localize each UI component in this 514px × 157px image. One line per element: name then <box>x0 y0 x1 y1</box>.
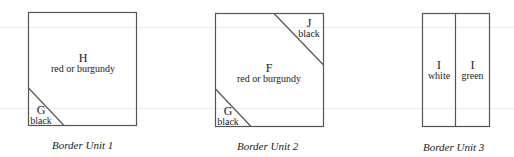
piece-color: red or burgundy <box>234 74 304 84</box>
piece-color: green <box>456 71 489 81</box>
piece-color: black <box>215 117 241 127</box>
unit2-piece-f: F red or burgundy <box>234 62 304 84</box>
unit2-piece-g: G black <box>215 105 241 127</box>
piece-color: black <box>28 116 54 126</box>
piece-color: black <box>296 29 322 39</box>
unit2-caption: Border Unit 2 <box>237 140 298 152</box>
piece-color: white <box>423 71 455 81</box>
unit1-caption: Border Unit 1 <box>52 139 113 151</box>
unit1-piece-g: G black <box>28 104 54 126</box>
unit3-piece-i-green: I green <box>456 59 489 81</box>
unit3-piece-i-white: I white <box>423 59 455 81</box>
unit3-caption: Border Unit 3 <box>423 141 484 153</box>
unit1-piece-h: H red or burgundy <box>48 52 118 74</box>
unit2-piece-j: J black <box>296 17 322 39</box>
piece-color: red or burgundy <box>48 64 118 74</box>
